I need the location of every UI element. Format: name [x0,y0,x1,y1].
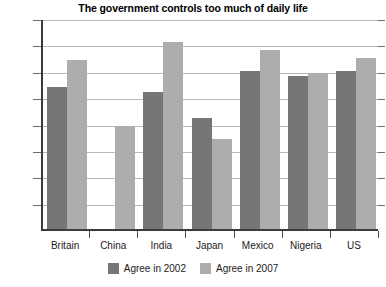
bar [288,76,308,229]
bar-group [288,20,328,229]
y-axis-tick-mark [33,46,41,47]
bar-group [192,20,232,229]
x-axis-tick-mark [282,231,283,238]
y-axis-tick-mark [33,205,41,206]
bar-group [240,20,280,229]
y-axis-tick-mark-right [378,126,385,127]
bar [336,71,356,229]
x-axis-tick-mark [137,231,138,238]
legend-label: Agree in 2002 [124,263,186,274]
bar [308,73,328,229]
legend-swatch-icon [200,263,211,274]
y-axis-tick-mark [33,20,41,21]
y-axis-tick-mark [33,99,41,100]
bar [356,58,376,229]
bar [192,118,212,229]
y-axis-tick-mark-right [378,20,385,21]
y-axis-tick-mark-right [378,205,385,206]
y-axis-tick-mark [33,73,41,74]
bar-group [143,20,183,229]
legend-item: Agree in 2002 [108,263,186,274]
y-axis-tick-mark-right [378,178,385,179]
bar [143,92,163,229]
y-axis-tick-mark [33,126,41,127]
legend-item: Agree in 2007 [200,263,278,274]
bar-group [47,20,87,229]
y-axis-tick-mark-right [378,152,385,153]
y-axis-tick-mark-right [378,99,385,100]
bar-chart: The government controls too much of dail… [0,0,386,287]
x-axis-tick-mark [185,231,186,238]
x-axis-tick-mark [234,231,235,238]
bar-group [336,20,376,229]
x-axis-tick-mark [378,231,379,238]
y-axis-tick-mark [33,152,41,153]
x-axis-tick-mark [89,231,90,238]
chart-legend: Agree in 2002Agree in 2007 [0,263,386,274]
bar [115,126,135,229]
bar [240,71,260,229]
x-axis-label-us: US [314,240,386,251]
y-axis-tick-mark [33,178,41,179]
bar [67,60,87,229]
legend-label: Agree in 2007 [216,263,278,274]
plot-area [41,20,378,231]
legend-swatch-icon [108,263,119,274]
chart-title: The government controls too much of dail… [0,2,386,14]
bar [212,139,232,229]
y-axis-tick-mark-right [378,46,385,47]
bar [47,87,67,229]
y-axis-tick-mark-right [378,73,385,74]
bar [163,42,183,229]
x-axis-tick-mark [330,231,331,238]
bar-group [95,20,135,229]
bar [260,50,280,229]
